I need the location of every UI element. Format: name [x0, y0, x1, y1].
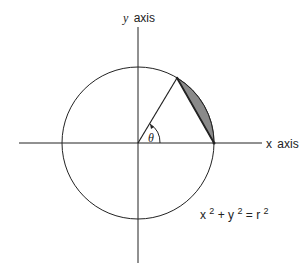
point-right — [213, 142, 216, 145]
circle-equation: x 2 + y 2 = r 2 — [200, 203, 268, 222]
point-top — [176, 77, 179, 80]
circle-segment-diagram: y axis x axis θ x 2 + y 2 = r 2 — [0, 0, 308, 275]
y-axis-label: y axis — [122, 11, 155, 25]
theta-label: θ — [148, 131, 154, 145]
chord-line — [177, 78, 214, 143]
x-axis-label: x axis — [266, 137, 299, 151]
radius-line — [138, 78, 177, 143]
